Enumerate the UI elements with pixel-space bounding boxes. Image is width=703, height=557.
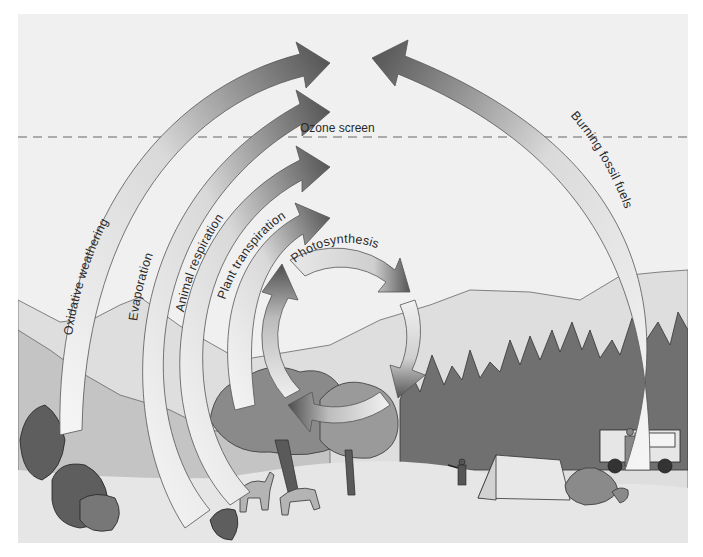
oxygen-cycle-diagram: Ozone screen Oxidative weathering Evapor…	[0, 0, 703, 557]
ozone-screen-label: Ozone screen	[300, 121, 375, 135]
